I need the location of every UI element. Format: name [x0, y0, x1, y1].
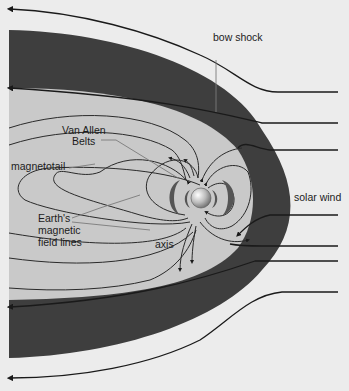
field-lines-label-line2: magnetic: [38, 224, 81, 236]
magnetotail-label: magnetotail: [11, 160, 65, 172]
field-lines-label-line3: field lines: [38, 236, 82, 248]
magnetosphere-diagram: bow shock Van Allen Belts magnetotail Ea…: [0, 0, 349, 391]
axis-label: axis: [155, 238, 174, 250]
van-allen-label-line2: Belts: [72, 135, 95, 147]
bow-shock-label: bow shock: [213, 31, 263, 43]
earth-globe: [191, 188, 211, 208]
solar-wind-label: solar wind: [294, 191, 341, 203]
field-lines-label-line1: Earth's: [38, 212, 70, 224]
